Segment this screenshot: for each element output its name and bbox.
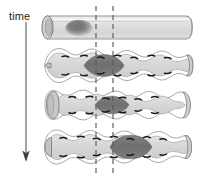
diagram-canvas xyxy=(0,0,211,177)
panel-peristalsis-1 xyxy=(45,49,194,83)
panel-peristalsis-3 xyxy=(45,130,192,164)
panel-peristalsis-2 xyxy=(45,90,190,120)
panel-straight-tube xyxy=(42,16,193,39)
down-arrow-icon xyxy=(22,22,29,162)
peristalsis-time-series-diagram: time xyxy=(0,0,211,177)
